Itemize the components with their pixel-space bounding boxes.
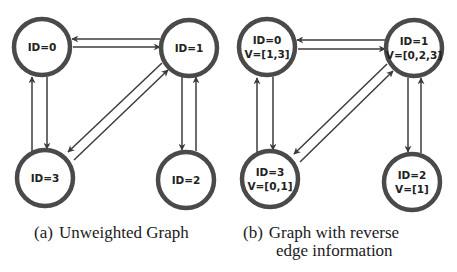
panel-b-reverse-edge-graph: ID=0V=[1,3]ID=1V=[0,2,3]ID=2V=[1]ID=3V=[… [239, 19, 442, 210]
node-1: ID=1 [161, 20, 217, 76]
edge-3-to-1-arrow [300, 71, 393, 162]
node-id-label: ID=1 [175, 42, 204, 54]
edge-3-to-1-arrow [74, 70, 168, 160]
node-3: ID=3 [17, 150, 73, 206]
edge-1-to-3-arrow [294, 64, 387, 154]
node-1: ID=1V=[0,2,3] [386, 20, 442, 76]
node-id-label: ID=3 [31, 172, 60, 184]
node-id-label: ID=0 [253, 34, 282, 46]
node-circle [242, 151, 298, 207]
node-circle [384, 154, 440, 210]
node-value-label: V=[1,3] [244, 48, 289, 60]
node-3: ID=3V=[0,1] [242, 151, 298, 207]
node-2: ID=2 [158, 152, 214, 208]
node-value-label: V=[0,2,3] [386, 49, 442, 61]
caption-text: Graph with reverse [269, 223, 399, 242]
node-value-label: V=[1] [395, 183, 429, 195]
caption-tag: (a) [34, 223, 53, 242]
node-id-label: ID=2 [398, 169, 427, 181]
caption-b: (b)Graph with reverse edge information [243, 224, 399, 260]
node-id-label: ID=1 [400, 35, 429, 47]
node-id-label: ID=2 [172, 174, 201, 186]
caption-text: Unweighted Graph [59, 223, 189, 242]
node-circle [386, 20, 442, 76]
caption-a: (a)Unweighted Graph [34, 224, 189, 242]
node-2: ID=2V=[1] [384, 154, 440, 210]
node-id-label: ID=0 [28, 41, 57, 53]
caption-tag: (b) [243, 223, 263, 242]
node-value-label: V=[0,1] [247, 180, 292, 192]
nodes: ID=0V=[1,3]ID=1V=[0,2,3]ID=2V=[1]ID=3V=[… [239, 19, 442, 210]
node-0: ID=0V=[1,3] [239, 19, 295, 75]
node-0: ID=0 [14, 19, 70, 75]
panel-a-unweighted-graph: ID=0ID=1ID=2ID=3 [14, 19, 217, 208]
caption-text-line2: edge information [243, 242, 399, 260]
edge-1-to-3-arrow [68, 63, 162, 152]
node-circle [239, 19, 295, 75]
node-id-label: ID=3 [256, 166, 285, 178]
